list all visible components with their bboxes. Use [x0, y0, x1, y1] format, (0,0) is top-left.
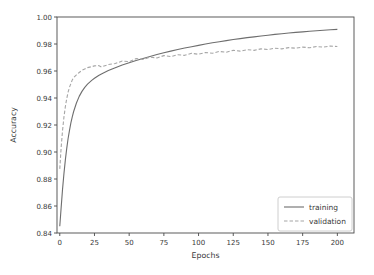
x-tick-label: 200	[331, 239, 344, 247]
x-tick-label: 100	[192, 239, 205, 247]
y-tick-label: 0.90	[36, 149, 52, 157]
validation-line	[60, 46, 338, 169]
y-tick-label: 0.86	[36, 203, 52, 211]
x-tick-label: 150	[261, 239, 274, 247]
x-tick-label: 175	[296, 239, 309, 247]
y-tick-label: 0.92	[36, 122, 52, 130]
y-tick-label: 0.84	[36, 230, 52, 238]
y-tick-label: 1.00	[36, 14, 52, 22]
x-tick-label: 25	[90, 239, 99, 247]
x-tick-label: 125	[227, 239, 240, 247]
y-tick-label: 0.96	[36, 68, 52, 76]
y-axis-label: Accuracy	[9, 107, 18, 143]
y-tick-label: 0.94	[36, 95, 52, 103]
figure: 02550751001251501752000.840.860.880.900.…	[0, 0, 374, 275]
x-axis-label: Epochs	[192, 251, 220, 260]
accuracy-line-chart: 02550751001251501752000.840.860.880.900.…	[0, 0, 374, 275]
y-tick-label: 0.98	[36, 41, 52, 49]
x-tick-label: 75	[159, 239, 168, 247]
x-tick-label: 50	[125, 239, 134, 247]
y-tick-label: 0.88	[36, 176, 52, 184]
legend-training-label: training	[309, 203, 338, 212]
x-tick-label: 0	[58, 239, 62, 247]
legend-validation-label: validation	[309, 217, 346, 226]
